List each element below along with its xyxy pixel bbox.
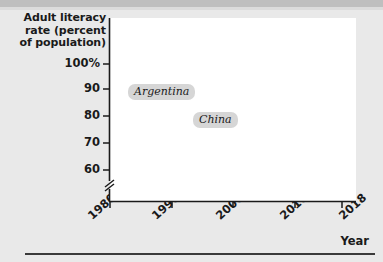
bottom-divider-rule xyxy=(25,253,375,255)
y-axis-break-mark-1 xyxy=(105,180,114,187)
axes-svg xyxy=(0,0,383,262)
chart-figure: Adult literacy rate (percent of populati… xyxy=(0,0,383,262)
